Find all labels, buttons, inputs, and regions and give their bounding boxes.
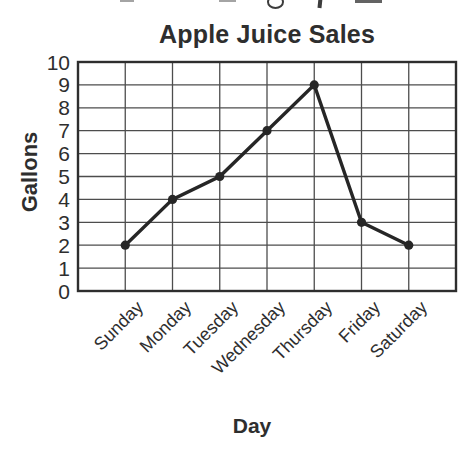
y-tick-label: 9: [0, 73, 70, 96]
y-tick-label: 5: [0, 165, 70, 188]
data-point-marker: [168, 195, 177, 204]
data-point-marker: [215, 172, 224, 181]
cropped-glyph-fragment: [355, 0, 382, 3]
y-tick-label: 2: [0, 234, 70, 257]
x-axis-title: Day: [78, 414, 426, 438]
y-tick-label: 4: [0, 188, 70, 211]
y-tick-label: 6: [0, 142, 70, 165]
y-tick-label: 8: [0, 96, 70, 119]
cropped-glyph-fragment: [317, 0, 322, 8]
y-tick-label: 7: [0, 119, 70, 142]
plot-area: [78, 62, 456, 291]
y-tick-label: 1: [0, 257, 70, 280]
data-point-marker: [357, 218, 366, 227]
cropped-glyph-fragment: [219, 0, 236, 2]
data-point-marker: [404, 241, 413, 250]
y-tick-label: 0: [0, 280, 70, 303]
data-point-marker: [262, 126, 271, 135]
chart-title: Apple Juice Sales: [78, 20, 456, 49]
data-point-marker: [121, 241, 130, 250]
y-tick-label: 10: [0, 51, 70, 74]
cropped-glyph-fragment: [267, 0, 284, 9]
cropped-glyph-fragment: [120, 0, 134, 2]
y-tick-label: 3: [0, 211, 70, 234]
data-point-marker: [310, 80, 319, 89]
